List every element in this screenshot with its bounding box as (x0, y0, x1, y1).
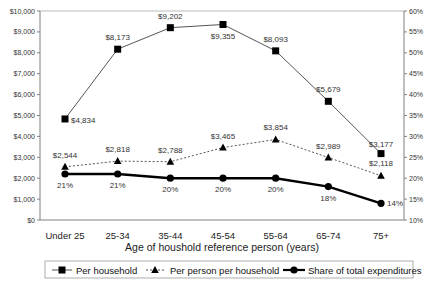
line-chart: $0$1,000$2,000$3,000$4,000$5,000$6,000$7… (0, 0, 442, 287)
data-label: 14% (387, 199, 403, 208)
y-tick-label: $8,000 (14, 49, 36, 56)
y2-tick-label: 25% (409, 154, 423, 161)
legend: Per householdPer person per householdSha… (45, 261, 422, 278)
x-tick-label: 55-64 (264, 230, 288, 241)
square-marker (62, 115, 69, 122)
square-marker (325, 98, 332, 105)
square-marker (378, 150, 385, 157)
y-tick-label: $6,000 (14, 91, 36, 98)
y-tick-label: $0 (27, 217, 35, 224)
square-marker (114, 46, 121, 53)
data-label: $8,093 (263, 35, 288, 44)
x-tick-label: 45-54 (211, 230, 235, 241)
triangle-marker (219, 144, 227, 151)
y2-tick-label: 60% (409, 8, 423, 15)
x-axis-title: Age of houshold reference person (years) (125, 241, 319, 253)
y-tick-label: $5,000 (14, 112, 36, 119)
triangle-marker (61, 163, 69, 170)
y-tick-label: $9,000 (14, 28, 36, 35)
data-label: $2,788 (158, 146, 183, 155)
data-label: $4,834 (71, 116, 96, 125)
x-tick-label: 65-74 (316, 230, 340, 241)
triangle-marker (272, 135, 280, 142)
y-tick-label: $1,000 (14, 196, 36, 203)
legend-circle-icon (290, 266, 297, 273)
data-label: 18% (320, 194, 336, 203)
x-tick-label: 25-34 (106, 230, 130, 241)
circle-marker (61, 170, 68, 177)
y2-tick-label: 40% (409, 91, 423, 98)
circle-marker (325, 183, 332, 190)
y2-tick-label: 55% (409, 28, 423, 35)
y2-tick-label: 20% (409, 175, 423, 182)
y2-tick-label: 50% (409, 49, 423, 56)
triangle-marker (114, 157, 122, 164)
y2-tick-label: 30% (409, 133, 423, 140)
y2-tick-label: 45% (409, 70, 423, 77)
circle-marker (114, 170, 121, 177)
square-marker (167, 24, 174, 31)
data-label: $9,355 (211, 32, 236, 41)
y2-tick-label: 35% (409, 112, 423, 119)
data-label: 21% (57, 181, 73, 190)
data-label: 20% (162, 185, 178, 194)
data-label: 21% (110, 181, 126, 190)
y-tick-label: $4,000 (14, 133, 36, 140)
triangle-marker (325, 154, 333, 161)
circle-marker (219, 175, 226, 182)
data-label: $3,465 (211, 132, 236, 141)
square-marker (272, 47, 279, 54)
series-group (61, 21, 385, 207)
legend-label: Per household (76, 265, 137, 276)
data-label: $3,854 (263, 123, 288, 132)
data-label: $2,544 (53, 151, 78, 160)
triangle-marker (377, 172, 385, 179)
x-tick-label: 35-44 (158, 230, 182, 241)
data-label: $2,989 (316, 142, 341, 151)
x-tick-label: 75+ (373, 230, 390, 241)
y-tick-label: $2,000 (14, 175, 36, 182)
y-tick-label: $7,000 (14, 70, 36, 77)
legend-square-icon (59, 267, 66, 274)
circle-marker (272, 175, 279, 182)
y-tick-label: $3,000 (14, 154, 36, 161)
data-label: $3,177 (369, 140, 394, 149)
data-label: 20% (215, 185, 231, 194)
legend-label: Per person per household (170, 265, 279, 276)
data-label: $5,679 (316, 85, 341, 94)
data-label: $8,173 (105, 33, 130, 42)
circle-marker (167, 175, 174, 182)
data-label: $9,202 (158, 12, 183, 21)
legend-label: Share of total expenditures (308, 265, 422, 276)
y2-tick-label: 10% (409, 217, 423, 224)
data-label: $2,818 (105, 145, 130, 154)
circle-marker (377, 200, 384, 207)
x-tick-label: Under 25 (45, 230, 84, 241)
data-label: $2,118 (369, 159, 393, 168)
square-marker (220, 21, 227, 28)
data-label: 20% (268, 185, 284, 194)
y2-tick-label: 15% (409, 196, 423, 203)
y-tick-label: $10,000 (10, 8, 35, 15)
